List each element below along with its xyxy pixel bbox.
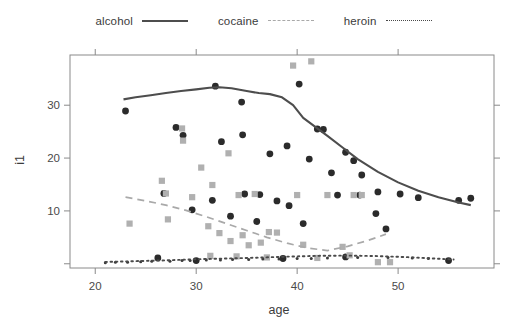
data-point-alcohol bbox=[173, 124, 180, 131]
data-point-cocaine bbox=[308, 58, 314, 64]
y-axis-label: i1 bbox=[13, 155, 27, 165]
data-point-cocaine bbox=[179, 125, 185, 131]
data-point-cocaine bbox=[359, 192, 365, 198]
x-tick-label-40: 40 bbox=[291, 280, 304, 292]
data-point-alcohol bbox=[328, 169, 335, 176]
data-point-alcohol bbox=[241, 191, 248, 198]
data-point-alcohol bbox=[239, 131, 246, 138]
data-point-cocaine bbox=[274, 229, 280, 235]
data-point-cocaine bbox=[159, 178, 165, 184]
data-point-cocaine bbox=[180, 138, 186, 144]
y-tick-label-30: 30 bbox=[38, 99, 60, 111]
data-point-cocaine bbox=[294, 192, 300, 198]
data-point-alcohol bbox=[358, 172, 365, 179]
data-point-alcohol bbox=[209, 197, 216, 204]
data-point-cocaine bbox=[324, 192, 330, 198]
data-point-heroin bbox=[326, 256, 329, 259]
data-point-alcohol bbox=[266, 150, 273, 157]
data-point-alcohol bbox=[334, 192, 341, 199]
data-point-alcohol bbox=[218, 138, 225, 145]
data-point-cocaine bbox=[339, 244, 345, 250]
data-point-alcohol bbox=[284, 143, 291, 150]
data-point-alcohol bbox=[372, 210, 379, 217]
data-point-cocaine bbox=[198, 164, 204, 170]
data-point-cocaine bbox=[375, 259, 381, 265]
data-point-cocaine bbox=[387, 259, 393, 265]
y-tick-label-20: 20 bbox=[38, 152, 60, 164]
data-point-alcohol bbox=[300, 220, 307, 227]
plot-frame bbox=[70, 55, 494, 268]
data-point-cocaine bbox=[240, 232, 246, 238]
data-point-alcohol bbox=[415, 194, 422, 201]
data-point-alcohol bbox=[383, 225, 390, 232]
y-tick-label-10: 10 bbox=[38, 205, 60, 217]
data-point-heroin bbox=[277, 258, 280, 261]
series-alcohol bbox=[122, 81, 474, 264]
chart-screenshot: alcohol cocaine heroin 30 20 10 bbox=[0, 0, 527, 335]
data-point-cocaine bbox=[225, 150, 231, 156]
data-point-cocaine bbox=[258, 240, 264, 246]
data-point-cocaine bbox=[252, 191, 258, 197]
data-point-alcohol bbox=[445, 257, 452, 264]
data-point-alcohol bbox=[286, 202, 293, 209]
data-point-cocaine bbox=[351, 192, 357, 198]
data-point-alcohol bbox=[193, 257, 200, 264]
data-point-alcohol bbox=[306, 156, 313, 163]
x-tick-label-20: 20 bbox=[89, 280, 102, 292]
x-axis-label: age bbox=[269, 303, 290, 317]
data-point-cocaine bbox=[165, 216, 171, 222]
data-point-alcohol bbox=[467, 195, 474, 202]
data-point-cocaine bbox=[216, 230, 222, 236]
data-point-alcohol bbox=[238, 99, 245, 106]
x-tick-label-30: 30 bbox=[190, 280, 203, 292]
data-point-cocaine bbox=[205, 223, 211, 229]
data-point-alcohol bbox=[274, 197, 281, 204]
data-point-heroin bbox=[310, 257, 313, 260]
data-point-alcohol bbox=[227, 213, 234, 220]
data-point-cocaine bbox=[126, 221, 132, 227]
data-point-alcohol bbox=[375, 188, 382, 195]
data-point-alcohol bbox=[253, 218, 260, 225]
axes-layer bbox=[64, 49, 500, 274]
data-point-cocaine bbox=[266, 229, 272, 235]
data-point-cocaine bbox=[246, 242, 252, 248]
plot-area: 30 20 10 20 30 40 50 age i1 bbox=[0, 0, 527, 335]
data-point-cocaine bbox=[227, 238, 233, 244]
data-point-alcohol bbox=[296, 81, 303, 88]
data-point-cocaine bbox=[290, 62, 296, 68]
data-point-cocaine bbox=[163, 190, 169, 196]
data-point-alcohol bbox=[122, 108, 129, 115]
x-tick-label-50: 50 bbox=[392, 280, 405, 292]
data-point-heroin bbox=[296, 257, 299, 260]
trend-line-alcohol bbox=[124, 87, 471, 205]
plot-canvas bbox=[0, 0, 527, 335]
series-layer bbox=[104, 58, 474, 265]
data-point-cocaine bbox=[189, 194, 195, 200]
data-point-alcohol bbox=[397, 191, 404, 198]
data-point-cocaine bbox=[209, 182, 215, 188]
data-point-cocaine bbox=[235, 192, 241, 198]
